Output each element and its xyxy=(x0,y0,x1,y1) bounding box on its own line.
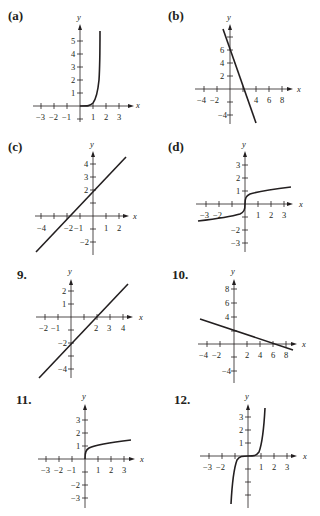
svg-text:−3: −3 xyxy=(200,210,209,220)
svg-text:−3: −3 xyxy=(41,465,50,475)
svg-text:2: 2 xyxy=(94,323,98,333)
svg-text:−3: −3 xyxy=(71,493,80,503)
svg-text:y: y xyxy=(230,266,235,276)
graph-panel-b: (b) −4−2 468 −4 246 xy xyxy=(160,0,320,130)
svg-text:8: 8 xyxy=(280,95,284,105)
graph-panel-c: (c) −4−2−1 12 −2 234 xy xyxy=(0,135,160,260)
svg-text:2: 2 xyxy=(84,185,88,195)
svg-text:3: 3 xyxy=(282,210,286,220)
svg-text:x: x xyxy=(301,339,306,349)
graph-b: −4−2 468 −4 246 xy xyxy=(160,0,320,130)
svg-text:x: x xyxy=(298,199,303,209)
svg-text:−2: −2 xyxy=(212,350,221,360)
svg-text:y: y xyxy=(241,139,246,149)
graph-panel-a: (a) −3−2−1 123 12345 xy xyxy=(0,0,160,130)
graph-11: −3−2−1 123 −2−3 123 xy xyxy=(0,390,160,516)
svg-text:1: 1 xyxy=(104,223,108,233)
graph-10: −4−2 2468 −4 468 xy xyxy=(160,265,320,390)
svg-text:y: y xyxy=(81,391,86,401)
graph-panel-10: 10. −4−2 2468 −4 468 xy xyxy=(160,265,320,390)
svg-text:1: 1 xyxy=(96,465,100,475)
svg-text:−2: −2 xyxy=(80,237,89,247)
svg-text:−4: −4 xyxy=(58,364,68,374)
graph-d: −3−2 123 −2−3 123 xy xyxy=(160,135,320,260)
svg-text:3: 3 xyxy=(107,323,111,333)
graph-panel-d: (d) −3−2 123 −2−3 123 xy xyxy=(160,135,320,260)
svg-text:2: 2 xyxy=(109,465,113,475)
svg-text:6: 6 xyxy=(267,95,271,105)
svg-text:−2: −2 xyxy=(64,223,73,233)
graph-panel-12: 12. −3−2 123 123 xy xyxy=(160,390,320,516)
svg-text:1: 1 xyxy=(71,88,75,98)
svg-text:1: 1 xyxy=(239,438,243,448)
graph-panel-9: 9. −2−1 234 −2−4 12 xy xyxy=(0,265,160,390)
svg-text:4: 4 xyxy=(258,350,263,360)
svg-text:−2: −2 xyxy=(39,323,48,333)
svg-text:2: 2 xyxy=(62,286,66,296)
svg-text:x: x xyxy=(135,100,140,110)
svg-text:4: 4 xyxy=(84,159,89,169)
svg-text:y: y xyxy=(89,139,94,149)
svg-text:2: 2 xyxy=(239,425,243,435)
svg-text:3: 3 xyxy=(84,172,88,182)
svg-text:4: 4 xyxy=(225,312,230,322)
svg-text:y: y xyxy=(76,12,81,22)
svg-text:1: 1 xyxy=(76,441,80,451)
svg-text:6: 6 xyxy=(271,350,275,360)
svg-text:−2: −2 xyxy=(210,95,219,105)
svg-text:y: y xyxy=(67,266,72,276)
svg-text:−2: −2 xyxy=(231,225,240,235)
graph-12: −3−2 123 123 xy xyxy=(160,390,320,516)
svg-text:−1: −1 xyxy=(51,323,60,333)
svg-text:2: 2 xyxy=(236,173,240,183)
svg-text:1: 1 xyxy=(236,186,240,196)
svg-text:1: 1 xyxy=(256,210,260,220)
svg-text:2: 2 xyxy=(220,71,224,81)
svg-text:−1: −1 xyxy=(67,465,76,475)
svg-text:4: 4 xyxy=(254,95,259,105)
graph-c: −4−2−1 12 −2 234 xy xyxy=(0,135,160,260)
svg-text:−4: −4 xyxy=(37,223,47,233)
svg-text:6: 6 xyxy=(220,45,224,55)
svg-text:2: 2 xyxy=(117,223,121,233)
svg-text:2: 2 xyxy=(245,350,249,360)
svg-text:6: 6 xyxy=(225,298,229,308)
svg-text:2: 2 xyxy=(269,210,273,220)
svg-text:−2: −2 xyxy=(49,112,58,122)
svg-text:2: 2 xyxy=(76,428,80,438)
svg-text:−1: −1 xyxy=(74,223,83,233)
svg-text:x: x xyxy=(132,211,137,221)
svg-text:3: 3 xyxy=(239,412,243,422)
svg-text:3: 3 xyxy=(236,160,240,170)
svg-text:5: 5 xyxy=(71,36,75,46)
graph-a: −3−2−1 123 12345 xy xyxy=(0,0,160,130)
svg-text:1: 1 xyxy=(62,299,66,309)
svg-text:x: x xyxy=(302,451,307,461)
svg-text:−4: −4 xyxy=(199,350,209,360)
svg-text:2: 2 xyxy=(71,75,75,85)
svg-text:−3: −3 xyxy=(203,462,212,472)
svg-text:−4: −4 xyxy=(197,95,207,105)
svg-text:y: y xyxy=(244,391,249,401)
svg-text:3: 3 xyxy=(285,462,289,472)
svg-text:4: 4 xyxy=(121,323,126,333)
svg-text:3: 3 xyxy=(71,62,75,72)
svg-text:2: 2 xyxy=(272,462,276,472)
svg-text:−2: −2 xyxy=(71,480,80,490)
svg-text:−3: −3 xyxy=(231,238,240,248)
svg-text:−1: −1 xyxy=(62,112,71,122)
graph-panel-11: 11. −3−2−1 123 −2−3 123 xy xyxy=(0,390,160,516)
svg-text:4: 4 xyxy=(71,49,76,59)
svg-text:3: 3 xyxy=(122,465,126,475)
svg-text:3: 3 xyxy=(117,112,121,122)
svg-text:−3: −3 xyxy=(36,112,45,122)
svg-text:x: x xyxy=(139,454,144,464)
svg-text:−4: −4 xyxy=(222,366,232,376)
svg-text:1: 1 xyxy=(259,462,263,472)
svg-text:−2: −2 xyxy=(216,462,225,472)
svg-text:x: x xyxy=(138,312,143,322)
svg-text:8: 8 xyxy=(284,350,288,360)
svg-text:2: 2 xyxy=(104,112,108,122)
svg-text:1: 1 xyxy=(91,112,95,122)
svg-text:x: x xyxy=(296,84,301,94)
